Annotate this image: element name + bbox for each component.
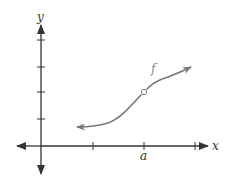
function-graph: y x a f — [0, 0, 228, 183]
x-axis — [17, 142, 208, 150]
y-axis — [37, 25, 45, 174]
curve-f — [77, 67, 191, 127]
y-axis-label: y — [36, 10, 44, 24]
open-circle-hole — [141, 89, 146, 94]
x-axis-label: x — [212, 139, 219, 153]
curve-label-f: f — [150, 62, 158, 76]
x-tick-label-a: a — [140, 149, 147, 163]
